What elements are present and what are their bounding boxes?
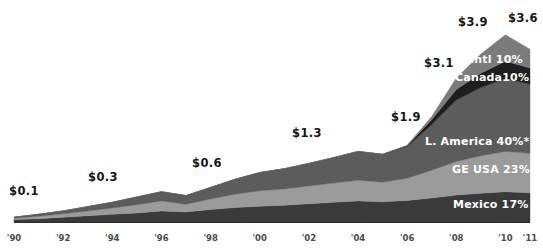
x-tick-label: '10	[498, 233, 512, 243]
x-tick-label: '92	[56, 233, 70, 243]
series-label-mexico-17: Mexico 17%	[453, 199, 529, 211]
x-tick-label: '11	[523, 233, 537, 243]
x-tick-label: '90	[7, 233, 21, 243]
series-label-l-america-40: L. America 40%*	[425, 136, 530, 148]
total-label: $3.9	[458, 16, 488, 28]
x-tick-label: '96	[154, 233, 168, 243]
total-label: $1.9	[391, 111, 421, 123]
total-label: $0.6	[192, 157, 222, 169]
x-tick-label: '02	[302, 233, 316, 243]
x-tick-label: '94	[105, 233, 119, 243]
x-tick-label: '04	[351, 233, 365, 243]
total-label: $3.6	[508, 12, 538, 24]
stacked-area-chart: $0.1$0.3$0.6$1.3$1.9$3.1$3.9$3.6 Intl 10…	[0, 0, 543, 251]
series-label-ge-usa-23: GE USA 23%	[452, 164, 530, 176]
series-label-canada10: Canada10%	[455, 72, 529, 84]
x-tick-label: '08	[449, 233, 463, 243]
chart-plot-area	[0, 0, 543, 251]
x-tick-label: '98	[203, 233, 217, 243]
total-label: $0.3	[88, 171, 118, 183]
total-label: $0.1	[9, 185, 39, 197]
x-tick-label: '06	[400, 233, 414, 243]
total-label: $1.3	[292, 127, 322, 139]
series-label-intl-10: Intl 10%	[470, 54, 523, 66]
total-label: $3.1	[424, 57, 454, 69]
x-tick-label: '00	[252, 233, 266, 243]
